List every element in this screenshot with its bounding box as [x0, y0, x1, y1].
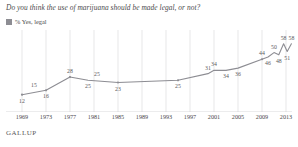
data-point-label: 25 [94, 71, 100, 77]
x-axis-tick: 1973 [40, 113, 52, 120]
x-axis-tick: 2005 [232, 113, 244, 120]
x-axis-tick: 1997 [184, 113, 196, 120]
chart-legend: % Yes, legal [6, 18, 47, 25]
data-point-label: 36 [235, 71, 241, 77]
legend-label: % Yes, legal [15, 18, 47, 25]
x-axis-tick: 1969 [16, 113, 28, 120]
gallup-footer: GALLUP [6, 129, 37, 137]
data-point-label: 16 [43, 93, 49, 99]
data-point-label: 15 [31, 82, 37, 88]
x-axis-tick: 1981 [88, 113, 100, 120]
data-point-label: 34 [211, 61, 217, 67]
data-point-label: 48 [276, 58, 282, 64]
x-axis-tick: 2013 [280, 113, 292, 120]
x-axis-tick: 2009 [256, 113, 268, 120]
data-point-label: 23 [115, 86, 121, 92]
x-axis-tick-labels: 1969197319771981198519891993199720012005… [0, 113, 298, 125]
data-point-label: 44 [259, 50, 265, 56]
data-point-label: 51 [284, 55, 290, 61]
data-point-label: 58 [288, 35, 294, 41]
data-point-label: 25 [85, 83, 91, 89]
data-point-label: 12 [19, 98, 25, 104]
line-chart-svg [0, 30, 298, 112]
data-point-label: 25 [175, 83, 181, 89]
x-axis-tick: 2001 [208, 113, 220, 120]
x-axis-tick: 1993 [160, 113, 172, 120]
x-axis-tick: 1989 [136, 113, 148, 120]
x-axis-tick: 1985 [112, 113, 124, 120]
chart-plot-area: 12162825232531343436444650485851581525 [0, 30, 298, 112]
data-point-label: 46 [265, 60, 271, 66]
x-axis-tick: 1977 [64, 113, 76, 120]
data-point-label: 58 [281, 35, 287, 41]
data-point-label: 50 [271, 44, 277, 50]
legend-swatch-icon [6, 19, 12, 25]
chart-title: Do you think the use of marijuana should… [6, 3, 200, 12]
data-point-label: 28 [67, 68, 73, 74]
data-point-label: 34 [223, 73, 229, 79]
data-point-label: 31 [205, 65, 211, 71]
